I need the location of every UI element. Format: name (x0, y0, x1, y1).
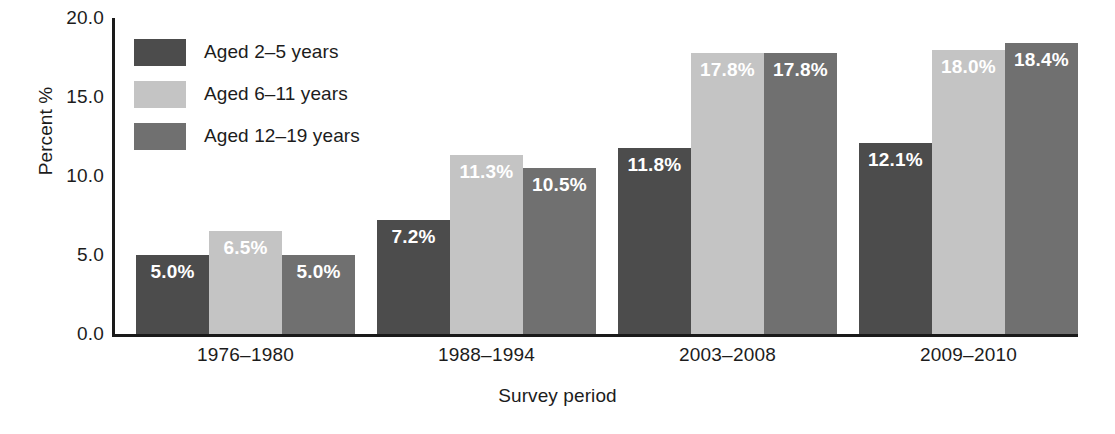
legend-label: Aged 2–5 years (204, 41, 339, 63)
x-axis-title: Survey period (0, 385, 1115, 407)
bar-value-label: 11.3% (450, 161, 523, 183)
bar: 17.8% (764, 53, 837, 334)
x-axis-tick-label: 2009–2010 (869, 344, 1069, 366)
bar: 5.0% (136, 255, 209, 334)
bar-value-label: 10.5% (523, 174, 596, 196)
bar: 11.8% (618, 148, 691, 334)
bar: 10.5% (523, 168, 596, 334)
bar: 7.2% (377, 220, 450, 334)
chart-legend: Aged 2–5 yearsAged 6–11 yearsAged 12–19 … (134, 31, 360, 157)
y-axis-tick-label: 5.0 (42, 244, 104, 266)
y-axis-tick-label: 15.0 (42, 86, 104, 108)
bar: 5.0% (282, 255, 355, 334)
bar-value-label: 7.2% (377, 226, 450, 248)
y-axis-tick-label: 10.0 (42, 165, 104, 187)
legend-swatch-icon (134, 39, 186, 66)
legend-swatch-icon (134, 81, 186, 108)
bar: 12.1% (859, 143, 932, 334)
legend-item: Aged 6–11 years (134, 73, 360, 115)
bar: 17.8% (691, 53, 764, 334)
y-axis-tick-label: 0.0 (42, 323, 104, 345)
bar-value-label: 17.8% (691, 59, 764, 81)
y-axis-tick-label: 20.0 (42, 7, 104, 29)
x-axis-tick-label: 2003–2008 (628, 344, 828, 366)
bar-value-label: 5.0% (136, 261, 209, 283)
bar-value-label: 18.0% (932, 56, 1005, 78)
legend-swatch-icon (134, 123, 186, 150)
bar-value-label: 17.8% (764, 59, 837, 81)
bar: 11.3% (450, 155, 523, 334)
bar-chart-figure: Percent % 20.015.010.05.00.0 5.0%6.5%5.0… (0, 0, 1115, 434)
legend-label: Aged 6–11 years (204, 83, 348, 105)
x-axis-tick-label: 1988–1994 (387, 344, 587, 366)
x-axis-line (112, 334, 1078, 337)
bar-value-label: 12.1% (859, 149, 932, 171)
bar-value-label: 11.8% (618, 154, 691, 176)
y-axis-tick-labels: 20.015.010.05.00.0 (34, 0, 104, 434)
bar: 18.4% (1005, 43, 1078, 334)
legend-item: Aged 2–5 years (134, 31, 360, 73)
bar-value-label: 5.0% (282, 261, 355, 283)
bar: 6.5% (209, 231, 282, 334)
legend-item: Aged 12–19 years (134, 115, 360, 157)
legend-label: Aged 12–19 years (204, 125, 360, 147)
bar: 18.0% (932, 50, 1005, 334)
bar-value-label: 6.5% (209, 237, 282, 259)
bar-value-label: 18.4% (1005, 49, 1078, 71)
x-axis-tick-label: 1976–1980 (146, 344, 346, 366)
